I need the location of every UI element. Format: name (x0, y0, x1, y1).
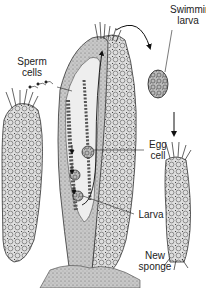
label-swimming-larva: Swimming larva (170, 4, 206, 26)
label-egg-cell: Egg cell (146, 139, 170, 161)
egg-cell-icon (82, 146, 94, 158)
swimming-larva-icon (148, 70, 168, 98)
label-sperm-cells: Sperm cells (16, 56, 48, 78)
label-larva: Larva (136, 209, 166, 220)
parent-sponge (40, 22, 140, 288)
left-sponge (2, 81, 53, 262)
sponge-reproduction-diagram (0, 0, 206, 288)
sperm-cells-icon (29, 81, 53, 88)
swimming-larva (148, 30, 172, 98)
label-new-sponge: New sponge (138, 250, 172, 272)
